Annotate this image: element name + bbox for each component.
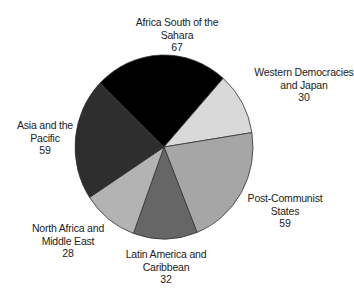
slice-value: 59 (17, 144, 73, 157)
slice-label-post-communist-states: Post-CommunistStates59 (248, 192, 323, 230)
slice-label-western-democracies-and-japan: Western Democraciesand Japan30 (254, 66, 353, 104)
slice-label-latin-america-and-caribbean: Latin America andCaribbean32 (126, 248, 207, 286)
slice-label-line: Post-Communist (248, 192, 323, 205)
slice-label-asia-and-the-pacific: Asia and thePacific59 (17, 119, 73, 157)
slice-label-north-africa-and-middle-east: North Africa andMiddle East28 (32, 222, 104, 260)
slice-label-line: Western Democracies (254, 66, 353, 79)
slice-label-line: North Africa and (32, 222, 104, 235)
slice-label-line: Sahara (136, 29, 219, 42)
slice-label-africa-south-of-the-sahara: Africa South of theSahara67 (136, 16, 219, 54)
slice-value: 30 (254, 91, 353, 104)
slice-label-line: and Japan (254, 79, 353, 92)
slice-value: 59 (248, 217, 323, 230)
pie-slices (75, 55, 253, 239)
slice-label-line: Middle East (32, 235, 104, 248)
slice-value: 67 (136, 41, 219, 54)
slice-value: 28 (32, 247, 104, 260)
slice-label-line: States (248, 205, 323, 218)
slice-label-line: Africa South of the (136, 16, 219, 29)
slice-label-line: Pacific (17, 132, 73, 145)
slice-label-line: Latin America and (126, 248, 207, 261)
slice-label-line: Caribbean (126, 261, 207, 274)
slice-value: 32 (126, 273, 207, 286)
slice-label-line: Asia and the (17, 119, 73, 132)
